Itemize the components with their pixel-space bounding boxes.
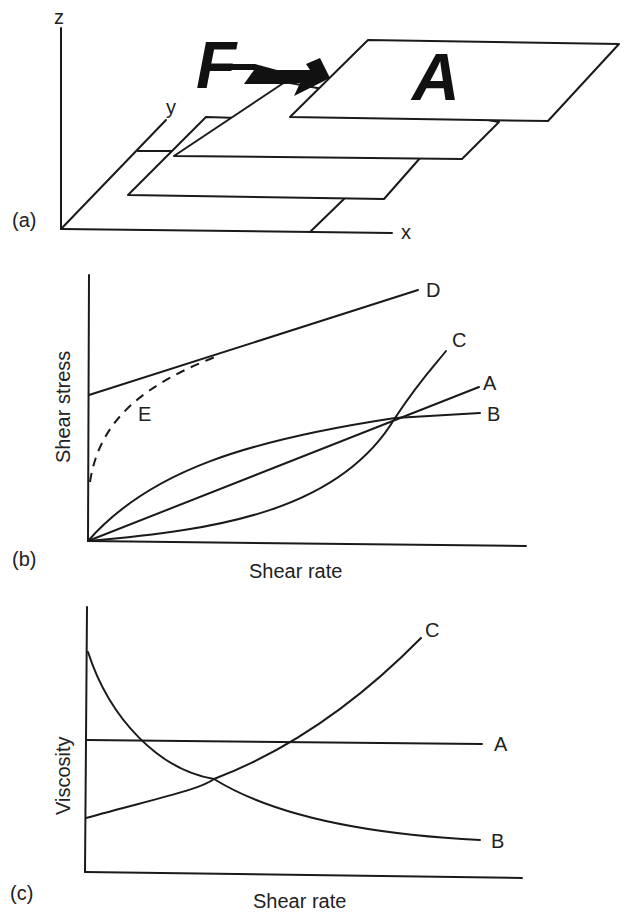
panel-a-label: (a) <box>12 209 36 231</box>
b-x-axis <box>88 541 526 546</box>
x-axis-label: x <box>401 221 411 243</box>
label-a: A <box>483 372 497 394</box>
panel-c-viscosity-chart: C A B Shear rate Viscosity (c) <box>10 607 522 912</box>
label-c: C <box>425 619 439 641</box>
z-axis-label: z <box>54 6 64 28</box>
x-axis <box>61 229 392 233</box>
label-e: E <box>138 403 151 425</box>
rheology-figure: F A z y x (a) D C A B E Shear rate Shear… <box>0 0 626 924</box>
label-b: B <box>487 403 500 425</box>
curve-c <box>88 351 446 541</box>
b-x-axis-label: Shear rate <box>249 560 342 582</box>
label-c: C <box>452 329 466 351</box>
label-b: B <box>491 830 504 852</box>
label-a: A <box>494 733 508 755</box>
y-axis-label: y <box>166 96 176 118</box>
force-label: F <box>196 28 238 102</box>
panel-a-shear-planes: F A z y x (a) <box>12 6 619 243</box>
bottom-plate-right-edge <box>311 199 344 231</box>
curve-d <box>89 290 418 395</box>
label-d: D <box>426 279 440 301</box>
area-label: A <box>410 40 460 114</box>
b-y-axis-label: Shear stress <box>52 351 74 463</box>
c-x-axis <box>85 872 522 878</box>
panel-b-label: (b) <box>12 548 36 570</box>
c-x-axis-label: Shear rate <box>253 890 346 912</box>
panel-b-shear-stress-chart: D C A B E Shear rate Shear stress (b) <box>12 275 526 582</box>
curve-c <box>86 638 421 818</box>
panel-c-label: (c) <box>10 882 33 904</box>
curve-b <box>88 413 480 541</box>
c-y-axis-label: Viscosity <box>52 736 74 815</box>
b-y-axis <box>88 275 89 541</box>
